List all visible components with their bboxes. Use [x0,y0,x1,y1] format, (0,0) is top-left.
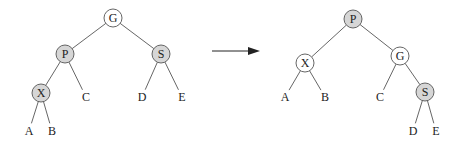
after-edge-G-S [405,63,420,84]
after-edge-S-D [415,101,422,124]
before-node-G: G [104,9,122,27]
before-subtree-E: E [178,90,185,104]
node-label: S [158,47,165,61]
after-edge-X-A [289,71,300,90]
node-label: P [62,47,69,61]
before-edge-S-E [165,62,179,90]
after-node-P: P [344,10,362,28]
before-node-X: X [32,84,50,102]
after-edge-S-E [427,101,433,124]
after-tree: PXGSABCDE [281,10,440,138]
arrow-head-icon [248,47,260,55]
before-subtree-C: C [82,90,90,104]
node-label: P [350,12,357,26]
before-subtree-D: D [138,90,147,104]
node-label: G [396,49,405,63]
after-node-S: S [416,83,434,101]
after-edge-G-C [384,64,397,90]
before-subtree-A: A [25,124,34,138]
before-edge-S-D [145,62,157,89]
before-edge-X-A [31,102,38,124]
before-edge-P-X [46,62,61,86]
before-node-S: S [152,45,170,63]
node-label: X [301,56,310,70]
before-tree: GPSXCDEAB [25,9,186,138]
node-label: G [109,11,118,25]
after-subtree-E: E [432,124,439,138]
after-node-G: G [391,47,409,65]
before-edge-G-S [120,23,154,48]
after-node-X: X [296,54,314,72]
transform-arrow-icon [212,47,260,55]
before-edge-G-P [72,23,106,48]
before-subtree-B: B [48,124,56,138]
after-subtree-A: A [281,90,290,104]
node-label: X [37,86,46,100]
after-edge-P-G [360,25,393,51]
after-edge-X-B [310,71,321,90]
tree-rotation-diagram: GPSXCDEAB PXGSABCDE [0,0,468,144]
before-edge-X-B [44,102,50,124]
before-edge-P-C [69,62,83,90]
after-subtree-C: C [376,90,384,104]
after-subtree-B: B [321,90,329,104]
node-label: S [422,85,429,99]
after-edge-P-X [312,25,347,57]
before-node-P: P [56,45,74,63]
after-subtree-D: D [409,124,418,138]
